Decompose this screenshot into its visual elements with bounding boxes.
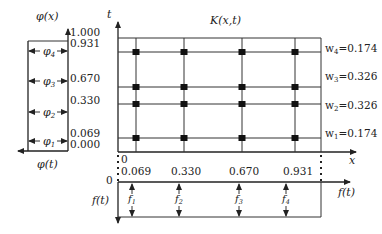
- diagram-svg: φ(x) φ(t) 1.000 0.931 0.670 0.330 0.069 …: [0, 0, 382, 234]
- kernel-panel: t K(x,t) x w4=0.174 w3=0.326 w2=0.326 w1…: [107, 8, 378, 181]
- node-square: [292, 135, 299, 141]
- f-panel: 0 f(t) f(t) f1 f2 f3 f4: [91, 174, 355, 223]
- x-axis-label: x: [349, 154, 356, 167]
- phi-x-label: φ(x): [36, 10, 59, 23]
- f-arrow-4: f4: [281, 184, 290, 216]
- node-square: [133, 101, 140, 107]
- x-tick-0670: 0.670: [229, 165, 259, 177]
- phi-4-sub: 4: [50, 51, 55, 59]
- f-axis-label: f(t): [337, 186, 355, 199]
- node-square: [133, 135, 140, 141]
- svg-text:φ1: φ1: [43, 135, 55, 149]
- phi-tick-0000: 0.000: [70, 138, 100, 150]
- svg-text:f1: f1: [127, 193, 136, 206]
- weight-4: w4=0.174: [325, 42, 378, 56]
- f-side-label: f(t): [91, 194, 109, 207]
- node-square: [239, 84, 246, 90]
- node-square: [181, 84, 188, 90]
- weight-1: w1=0.174: [325, 127, 378, 141]
- x-tick-0069: 0.069: [121, 165, 151, 177]
- phi-3-sub: 3: [51, 81, 56, 89]
- phi-segment-3: φ3: [29, 75, 67, 89]
- quadrature-nodes: [133, 49, 299, 141]
- phi-segment-2: φ2: [29, 106, 67, 120]
- svg-text:φ3: φ3: [43, 75, 56, 89]
- node-square: [181, 49, 188, 55]
- x-tick-0330: 0.330: [171, 165, 201, 177]
- t-axis-label: t: [107, 8, 112, 21]
- node-square: [133, 49, 140, 55]
- node-square: [239, 101, 246, 107]
- weight-2: w2=0.326: [325, 99, 378, 113]
- phi-tick-0670: 0.670: [70, 72, 100, 84]
- f-arrow-3: f3: [234, 184, 243, 216]
- quadrature-diagram: φ(x) φ(t) 1.000 0.931 0.670 0.330 0.069 …: [0, 0, 382, 234]
- f-origin-label: 0: [106, 174, 113, 186]
- svg-text:f2: f2: [174, 193, 183, 206]
- svg-text:φ2: φ2: [43, 106, 56, 120]
- svg-text:φ4: φ4: [43, 45, 55, 59]
- phi-t-label: φ(t): [37, 158, 58, 171]
- phi-2-sub: 2: [50, 112, 56, 120]
- node-square: [292, 84, 299, 90]
- weight-3: w3=0.326: [325, 70, 378, 84]
- svg-text:f4: f4: [281, 193, 290, 206]
- node-square: [239, 135, 246, 141]
- x-origin-label: 0: [121, 153, 128, 165]
- kernel-title: K(x,t): [209, 14, 241, 27]
- phi-panel: φ(x) φ(t) 1.000 0.931 0.670 0.330 0.069 …: [18, 10, 100, 171]
- f-arrow-2: f2: [174, 184, 183, 216]
- phi-1-sub: 1: [51, 141, 55, 149]
- phi-segment-1: φ1: [29, 135, 67, 149]
- phi-tick-0931: 0.931: [70, 37, 100, 49]
- phi-segment-4: φ4: [29, 45, 67, 59]
- node-square: [133, 84, 140, 90]
- node-square: [292, 49, 299, 55]
- f-arrow-1: f1: [127, 184, 136, 216]
- node-square: [181, 135, 188, 141]
- node-square: [292, 101, 299, 107]
- svg-text:f3: f3: [234, 193, 243, 206]
- node-square: [181, 101, 188, 107]
- phi-tick-0330: 0.330: [70, 94, 100, 106]
- node-square: [239, 49, 246, 55]
- x-tick-0931: 0.931: [283, 165, 313, 177]
